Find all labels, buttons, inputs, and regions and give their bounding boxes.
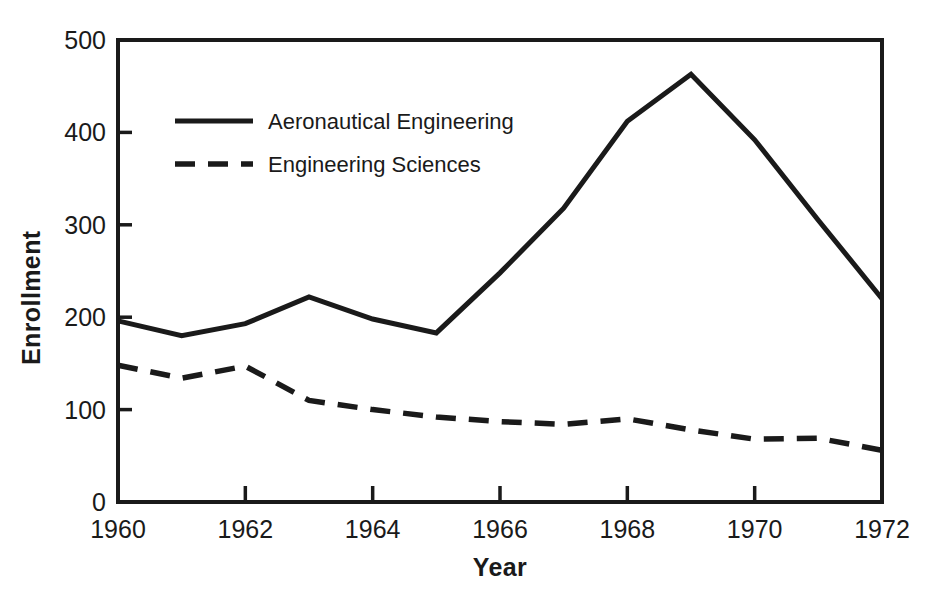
- x-tick-label-1966: 1966: [472, 515, 528, 543]
- y-tick-label-0: 0: [92, 488, 106, 516]
- chart-page: 0100200300400500 19601962196419661968197…: [0, 0, 938, 596]
- x-tick-label-1964: 1964: [345, 515, 401, 543]
- legend-label-engineering-sciences: Engineering Sciences: [268, 152, 481, 177]
- x-tick-label-1970: 1970: [727, 515, 783, 543]
- y-axis-tick-labels: 0100200300400500: [64, 26, 106, 516]
- x-axis-tick-labels: 1960196219641966196819701972: [90, 515, 910, 543]
- x-tick-label-1960: 1960: [90, 515, 146, 543]
- enrollment-line-chart: 0100200300400500 19601962196419661968197…: [0, 0, 938, 596]
- x-tick-label-1972: 1972: [854, 515, 910, 543]
- y-tick-label-100: 100: [64, 396, 106, 424]
- legend-label-aeronautical-engineering: Aeronautical Engineering: [268, 109, 514, 134]
- y-tick-label-400: 400: [64, 118, 106, 146]
- x-axis-title: Year: [473, 553, 527, 581]
- y-tick-label-300: 300: [64, 211, 106, 239]
- legend: Aeronautical Engineering Engineering Sci…: [175, 109, 514, 177]
- x-tick-label-1962: 1962: [218, 515, 274, 543]
- y-axis-title: Enrollment: [17, 230, 45, 365]
- x-tick-label-1968: 1968: [600, 515, 656, 543]
- y-tick-label-200: 200: [64, 303, 106, 331]
- series-line-engineering-sciences: [118, 365, 882, 450]
- x-axis-ticks: [245, 486, 754, 502]
- y-tick-label-500: 500: [64, 26, 106, 54]
